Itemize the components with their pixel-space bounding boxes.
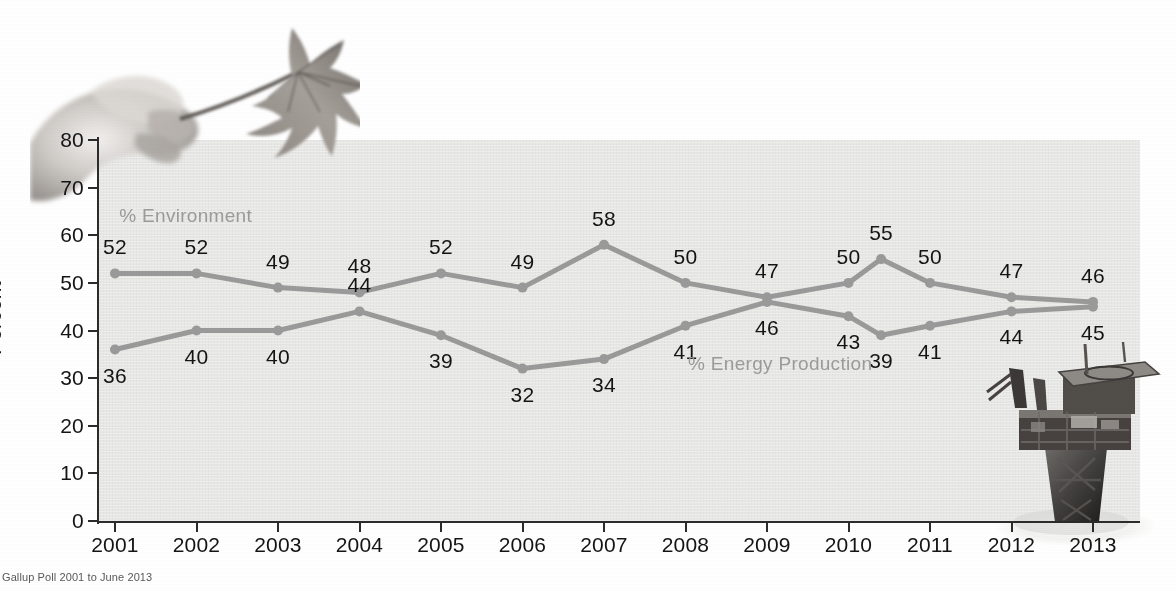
series-point-marker — [876, 330, 886, 340]
data-point-label: 52 — [429, 235, 453, 259]
data-point-label: 49 — [266, 250, 290, 274]
series-name-annotation: % Environment — [119, 205, 252, 227]
series-point-marker — [1007, 306, 1017, 316]
data-point-label: 47 — [755, 259, 779, 283]
series-point-marker — [876, 254, 886, 264]
data-point-label: 49 — [511, 250, 535, 274]
series-point-marker — [192, 268, 202, 278]
data-point-label: 45 — [1081, 321, 1105, 345]
series-point-marker — [844, 311, 854, 321]
series-point-marker — [599, 240, 609, 250]
data-point-label: 50 — [918, 245, 942, 269]
series-lines — [0, 0, 1176, 591]
data-point-label: 58 — [592, 207, 616, 231]
data-point-label: 50 — [837, 245, 861, 269]
data-point-label: 55 — [869, 221, 893, 245]
data-point-label: 47 — [1000, 259, 1024, 283]
series-point-marker — [110, 345, 120, 355]
series-point-marker — [1088, 302, 1098, 312]
series-point-marker — [762, 297, 772, 307]
series-point-marker — [599, 354, 609, 364]
series-point-marker — [355, 306, 365, 316]
data-point-label: 39 — [869, 349, 893, 373]
series-point-marker — [110, 268, 120, 278]
series-line — [115, 245, 1093, 302]
series-point-marker — [273, 283, 283, 293]
data-point-label: 52 — [103, 235, 127, 259]
series-point-marker — [518, 283, 528, 293]
series-point-marker — [273, 326, 283, 336]
series-name-annotation: % Energy Production — [688, 353, 872, 375]
data-point-label: 44 — [348, 273, 372, 297]
series-point-marker — [844, 278, 854, 288]
data-point-label: 43 — [837, 330, 861, 354]
data-point-label: 52 — [185, 235, 209, 259]
series-point-marker — [925, 278, 935, 288]
data-point-label: 44 — [1000, 325, 1024, 349]
data-point-label: 36 — [103, 364, 127, 388]
data-point-label: 34 — [592, 373, 616, 397]
data-point-label: 40 — [185, 345, 209, 369]
data-point-label: 32 — [511, 383, 535, 407]
data-point-label: 41 — [918, 340, 942, 364]
series-point-marker — [436, 330, 446, 340]
source-note: Gallup Poll 2001 to June 2013 — [2, 571, 152, 583]
data-point-label: 46 — [755, 316, 779, 340]
data-point-label: 50 — [674, 245, 698, 269]
data-point-label: 40 — [266, 345, 290, 369]
series-point-marker — [1007, 292, 1017, 302]
series-point-marker — [681, 321, 691, 331]
chart-figure: Percent 01020304050607080 20012002200320… — [0, 0, 1176, 591]
series-point-marker — [192, 326, 202, 336]
series-point-marker — [436, 268, 446, 278]
series-point-marker — [681, 278, 691, 288]
data-point-label: 46 — [1081, 264, 1105, 288]
series-point-marker — [925, 321, 935, 331]
series-point-marker — [518, 364, 528, 374]
data-point-label: 39 — [429, 349, 453, 373]
